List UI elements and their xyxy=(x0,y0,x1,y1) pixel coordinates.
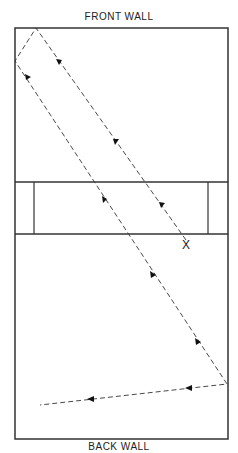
arrow-icon xyxy=(56,59,62,65)
direction-arrows xyxy=(25,59,201,402)
ball-path xyxy=(15,28,227,405)
arrow-icon xyxy=(195,338,201,345)
arrow-icon xyxy=(102,196,107,203)
arrow-icon xyxy=(150,271,156,278)
x-marker: X xyxy=(182,238,190,252)
court-diagram: X xyxy=(0,0,238,453)
arrow-icon xyxy=(87,396,94,402)
arrow-icon xyxy=(185,385,192,391)
arrow-icon xyxy=(159,202,165,208)
back-wall-label: BACK WALL xyxy=(0,441,238,452)
arrow-icon xyxy=(25,74,31,80)
arrow-icon xyxy=(113,139,119,145)
